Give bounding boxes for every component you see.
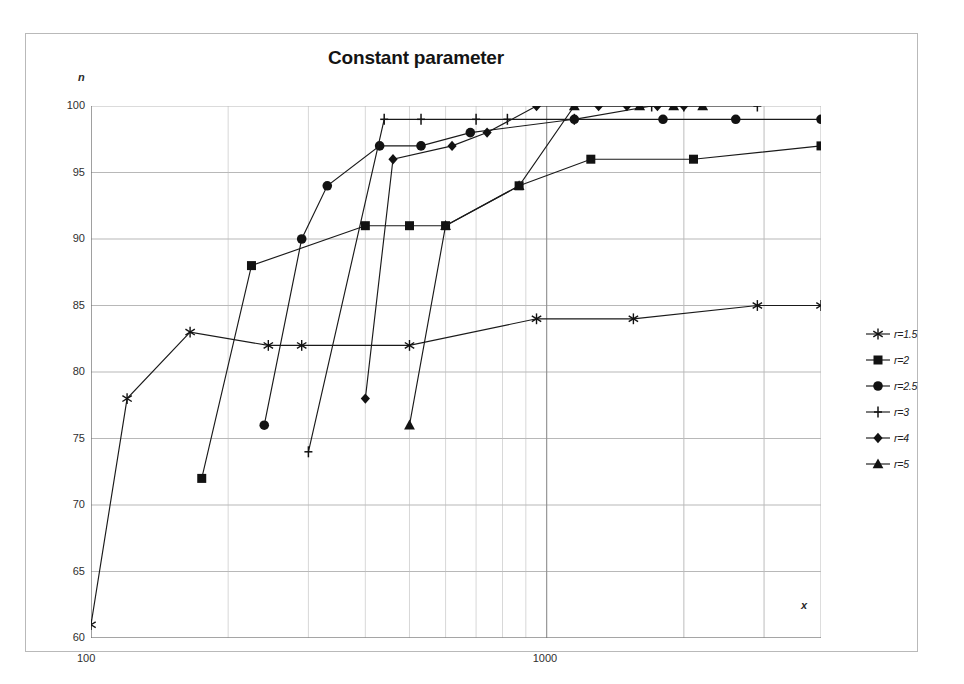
legend-item-r-2[interactable]: r=2 [864, 347, 936, 373]
legend-label: r=2.5 [894, 380, 917, 392]
plot-area: 60657075808590951001001000 [91, 106, 821, 638]
y-axis-label: n [78, 71, 85, 83]
data-series-r-1-5 [91, 300, 821, 630]
y-tick-label: 95 [57, 166, 85, 178]
x-tick-label: 1000 [533, 652, 573, 664]
y-tick-label: 70 [57, 498, 85, 510]
data-series-r-2 [197, 141, 821, 483]
legend-label: r=2 [894, 354, 909, 366]
y-tick-label: 85 [57, 299, 85, 311]
legend-label: r=4 [894, 432, 909, 444]
data-series-layer [91, 106, 821, 630]
legend-label: r=3 [894, 406, 909, 418]
page-title: Constant parameter [26, 47, 806, 69]
data-series-r-4 [361, 106, 689, 404]
diamond-marker [864, 431, 892, 445]
figure-frame: Constant parameter n x 60657075808590951… [25, 33, 918, 652]
y-tick-label: 80 [57, 365, 85, 377]
x-tick-label: 100 [77, 652, 117, 664]
legend-item-r-4[interactable]: r=4 [864, 425, 936, 451]
circle-marker [864, 379, 892, 393]
data-series-r-5 [404, 106, 708, 429]
legend: r=1.5r=2r=2.5r=3r=4r=5 [864, 321, 936, 477]
legend-item-r-1-5[interactable]: r=1.5 [864, 321, 936, 347]
chart-page: Constant parameter n x 60657075808590951… [0, 0, 964, 684]
legend-item-r-5[interactable]: r=5 [864, 451, 936, 477]
legend-item-r-3[interactable]: r=3 [864, 399, 936, 425]
y-tick-label: 75 [57, 432, 85, 444]
y-tick-label: 60 [57, 631, 85, 643]
legend-label: r=5 [894, 458, 909, 470]
y-tick-label: 65 [57, 565, 85, 577]
gridlines [91, 106, 821, 638]
triangle-marker [864, 457, 892, 471]
square-marker [864, 353, 892, 367]
legend-item-r-2-5[interactable]: r=2.5 [864, 373, 936, 399]
legend-label: r=1.5 [894, 328, 917, 340]
plus-marker [864, 405, 892, 419]
y-tick-label: 90 [57, 232, 85, 244]
chart-canvas [91, 106, 821, 638]
star-marker [864, 327, 892, 341]
data-series-r-2-5 [259, 115, 821, 431]
y-tick-label: 100 [57, 99, 85, 111]
